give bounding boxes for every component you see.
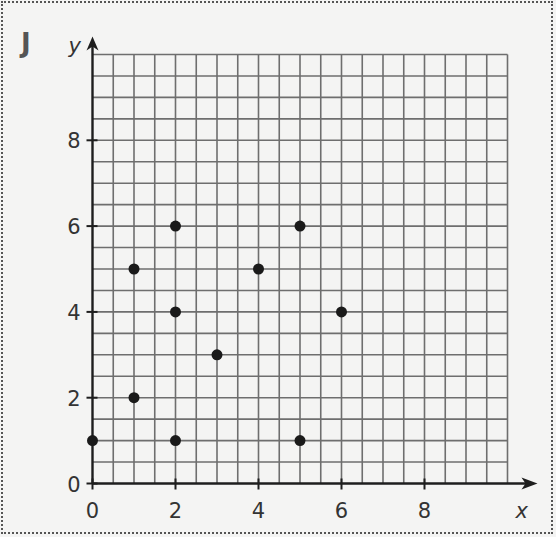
- y-tick-label: 0: [67, 473, 80, 497]
- y-axis-label: y: [68, 34, 82, 58]
- x-tick-label: 0: [86, 499, 99, 523]
- data-point: [170, 306, 181, 317]
- x-tick-label: 2: [169, 499, 182, 523]
- y-tick-label: 4: [67, 301, 80, 325]
- data-point: [170, 435, 181, 446]
- x-tick-label: 8: [418, 499, 431, 523]
- data-point: [295, 435, 306, 446]
- y-tick-label: 8: [67, 129, 80, 153]
- data-point: [212, 349, 223, 360]
- x-tick-label: 4: [252, 499, 265, 523]
- x-axis-label: x: [515, 499, 529, 523]
- data-point: [253, 264, 264, 275]
- data-point: [295, 221, 306, 232]
- data-point: [129, 392, 140, 403]
- y-tick-label: 6: [67, 215, 80, 239]
- data-point: [336, 306, 347, 317]
- y-tick-label: 2: [67, 387, 80, 411]
- coordinate-grid-chart: 0246802468xy: [0, 0, 556, 537]
- data-point: [170, 221, 181, 232]
- data-point: [129, 264, 140, 275]
- data-point: [87, 435, 98, 446]
- x-tick-label: 6: [335, 499, 348, 523]
